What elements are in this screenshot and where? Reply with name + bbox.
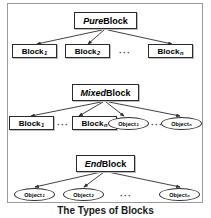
mixed-child-block-1-label: Block — [19, 119, 41, 128]
node-pure-child-block-n[interactable]: Blockn — [148, 44, 193, 58]
mixed-block-rest: Block — [106, 88, 131, 98]
end-child-object-1-label: Object — [24, 192, 42, 198]
node-pure-block[interactable]: Pure Block — [74, 12, 137, 29]
end-child-object-n-label: Object — [169, 192, 187, 198]
pure-children-ellipsis: ··· — [119, 49, 131, 58]
figure-caption: The Types of Blocks — [0, 205, 211, 218]
end-block-emphasis: End — [85, 159, 102, 169]
mixed-child-block-n-label: Block — [82, 119, 104, 128]
mixed-child-block-1-sub: 1 — [41, 122, 45, 128]
end-child-object-n-sub: n — [187, 193, 190, 198]
mixed-child-block-n-sub: n — [103, 122, 107, 128]
mixed-child-object-n-sub: n — [189, 122, 192, 127]
node-end-child-object-n[interactable]: Objectn — [159, 188, 200, 201]
pure-child-n-sub: n — [179, 50, 183, 56]
mixed-child-object-1-label: Object — [118, 121, 136, 127]
node-mixed-child-object-1[interactable]: Object1 — [108, 117, 149, 130]
edges-end-block — [35, 172, 180, 187]
pure-child-2-label: Block — [75, 47, 97, 56]
edges-pure-block — [37, 30, 172, 44]
pure-child-1-label: Block — [22, 47, 44, 56]
node-pure-child-block-1[interactable]: Block1 — [12, 44, 57, 58]
end-child-object-1-sub: 1 — [42, 193, 45, 198]
mixed-blocks-ellipsis: ··· — [57, 121, 69, 130]
end-block-rest: Block — [102, 159, 127, 169]
node-mixed-child-object-n[interactable]: Objectn — [161, 117, 202, 130]
node-mixed-block[interactable]: Mixed Block — [72, 84, 139, 101]
end-child-object-2-sub: 2 — [91, 193, 94, 198]
end-child-object-2-label: Object — [73, 192, 91, 198]
end-objects-ellipsis: ··· — [120, 192, 132, 201]
pure-block-emphasis: Pure — [83, 16, 103, 26]
block-types-diagram: Pure Block Block1 Block2 ··· Blockn Mixe… — [0, 0, 211, 218]
edges-mixed-block — [31, 102, 180, 116]
mixed-block-emphasis: Mixed — [80, 88, 106, 98]
node-pure-child-block-2[interactable]: Block2 — [65, 44, 110, 58]
mixed-child-object-1-sub: 1 — [136, 122, 139, 127]
node-mixed-child-block-1[interactable]: Block1 — [9, 116, 54, 130]
node-end-child-object-2[interactable]: Object2 — [63, 188, 104, 201]
pure-child-1-sub: 1 — [44, 50, 48, 56]
node-end-child-object-1[interactable]: Object1 — [14, 188, 55, 201]
pure-child-2-sub: 2 — [97, 50, 101, 56]
mixed-child-object-n-label: Object — [171, 121, 189, 127]
connector-edges — [0, 0, 211, 218]
pure-block-rest: Block — [103, 16, 128, 26]
pure-child-n-label: Block — [158, 47, 180, 56]
node-end-block[interactable]: End Block — [76, 155, 135, 172]
